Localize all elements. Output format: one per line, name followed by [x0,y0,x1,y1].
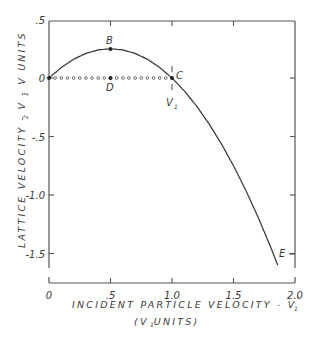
point-c-label: C [176,70,183,81]
dotted-marker [152,77,155,80]
svg-text:1: 1 [294,305,298,312]
dotted-marker [146,77,149,80]
dotted-marker [115,77,118,80]
svg-text:INCIDENT PARTICLE VELOCITY - V: INCIDENT PARTICLE VELOCITY - V [72,299,297,310]
y-tick-label: .5 [35,15,45,26]
dotted-marker [164,77,167,80]
point-e-label: E [279,248,286,259]
chart: 0.51.01.52.0.50-.5-1.0-1.5 B D C V 1 E I… [0,0,317,337]
axes [49,21,295,283]
svg-text:': ' [297,296,299,305]
y-tick-label: -.5 [32,132,45,143]
point-d-marker [109,76,113,80]
tick-labels: 0.51.01.52.0.50-.5-1.0-1.5 [25,15,302,302]
dotted-marker [66,77,69,80]
x-axis-subtitle: (V UNITS) 1 [134,316,199,328]
point-b-marker [109,47,113,51]
dotted-marker [134,77,137,80]
svg-text:2: 2 [22,115,29,119]
dotted-marker [85,77,88,80]
dotted-marker [103,77,106,80]
y-tick-label: -1.0 [25,190,45,201]
svg-text:(V UNITS): (V UNITS) [134,316,199,327]
x-tick-label: 0 [46,290,52,301]
svg-text:1: 1 [22,92,29,96]
dotted-marker [97,77,100,80]
dotted-marker [60,77,63,80]
dotted-marker [91,77,94,80]
y-axis-title: LATTICE VELOCITY - V - V UNITS 2 1 [16,31,29,248]
svg-text:V: V [166,97,174,108]
lattice-velocity-curve [49,49,278,265]
svg-text:1: 1 [174,103,178,110]
x-axis-title: INCIDENT PARTICLE VELOCITY - V 1 ' [72,296,299,312]
point-c-marker [170,76,174,80]
dotted-marker [158,77,161,80]
point-b-label: B [106,35,113,46]
dotted-marker [121,77,124,80]
ticks [49,21,295,283]
y-tick-label: -1.5 [25,249,45,260]
svg-text:LATTICE VELOCITY - V - V UNI: LATTICE VELOCITY - V - V UNITS [16,31,27,248]
v1-label: V 1 [166,97,178,110]
dotted-marker [140,77,143,80]
dotted-marker [127,77,130,80]
dotted-marker [54,77,57,80]
svg-text:1: 1 [150,321,154,328]
origin-point [47,76,51,80]
dotted-marker [72,77,75,80]
point-d-label: D [106,82,114,93]
dotted-marker [78,77,81,80]
y-tick-label: 0 [39,73,45,84]
